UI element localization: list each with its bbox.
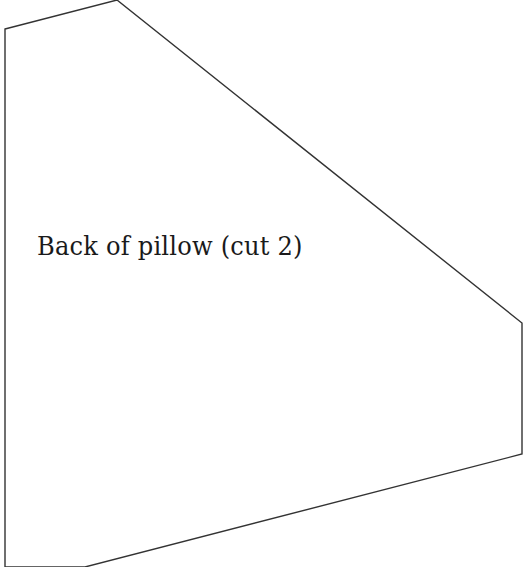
pillow-back-shape <box>5 0 522 567</box>
pattern-canvas: Back of pillow (cut 2) <box>0 0 524 567</box>
pattern-piece-outline <box>0 0 524 567</box>
pattern-piece-label: Back of pillow (cut 2) <box>37 226 303 266</box>
